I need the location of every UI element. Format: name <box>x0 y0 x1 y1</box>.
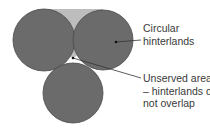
label-line: hinterlands <box>143 35 194 48</box>
label-unserved-areas: Unserved areas – hinterlands do not over… <box>143 72 210 110</box>
leader-dot-circular <box>115 41 118 44</box>
hinterland-circle-bottom <box>43 63 103 123</box>
hinterland-circle-left <box>13 9 75 71</box>
label-line: not overlap <box>143 97 210 110</box>
label-line: – hinterlands do <box>143 85 210 98</box>
label-line: Circular <box>143 22 194 35</box>
label-line: Unserved areas <box>143 72 210 85</box>
label-circular-hinterlands: Circular hinterlands <box>143 22 194 47</box>
leader-dot-unserved <box>72 57 75 60</box>
